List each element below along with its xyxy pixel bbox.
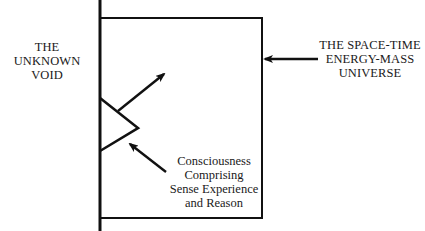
unknown-void-line-3: VOID [8, 68, 86, 82]
universe-line-2: ENERGY-MASS [315, 52, 425, 66]
consciousness-zigzag [100, 98, 138, 151]
consciousness-label: Consciousness Comprising Sense Experienc… [160, 154, 268, 210]
universe-label: THE SPACE-TIME ENERGY-MASS UNIVERSE [315, 38, 425, 80]
universe-line-3: UNIVERSE [315, 66, 425, 80]
unknown-void-line-1: THE [8, 40, 86, 54]
universe-line-1: THE SPACE-TIME [315, 38, 425, 52]
consciousness-line-1: Consciousness [160, 154, 268, 168]
unknown-void-line-2: UNKNOWN [8, 54, 86, 68]
consciousness-line-2: Comprising [160, 168, 268, 182]
consciousness-line-3: Sense Experience [160, 182, 268, 196]
unknown-void-label: THE UNKNOWN VOID [8, 40, 86, 82]
outward-arrow [118, 74, 164, 111]
diagram-canvas: THE UNKNOWN VOID THE SPACE-TIME ENERGY-M… [0, 0, 425, 231]
consciousness-line-4: and Reason [160, 196, 268, 210]
